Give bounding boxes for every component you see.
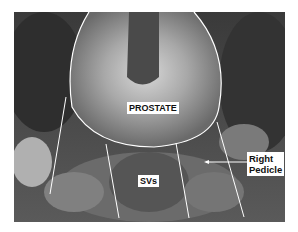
- right-pedicle-label: Right Pedicle: [247, 152, 284, 176]
- right-pedicle-label-line2: Pedicle: [249, 164, 282, 175]
- seminal-vesicles-label: SVs: [138, 175, 159, 187]
- surgical-photo: PROSTATE SVs Right Pedicle: [14, 12, 285, 222]
- photo-scene: [14, 12, 285, 222]
- right-pedicle-label-line1: Right: [249, 153, 282, 164]
- prostate-label: PROSTATE: [127, 102, 179, 114]
